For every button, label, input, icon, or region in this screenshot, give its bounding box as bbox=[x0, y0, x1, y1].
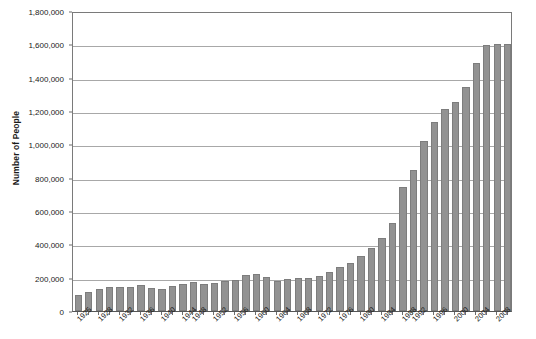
y-tick-mark bbox=[69, 178, 72, 179]
x-tick-mark bbox=[276, 312, 277, 315]
x-tick-mark bbox=[412, 312, 413, 315]
bar bbox=[106, 287, 113, 311]
x-tick-mark bbox=[245, 312, 246, 315]
y-tick-label: 1,200,000 bbox=[28, 108, 64, 117]
x-tick-mark bbox=[402, 312, 403, 315]
x-tick-mark bbox=[318, 312, 319, 315]
x-tick-mark bbox=[255, 312, 256, 315]
y-tick-label: 600,000 bbox=[35, 208, 64, 217]
x-tick-mark bbox=[234, 312, 235, 315]
x-tick-mark bbox=[392, 312, 393, 315]
y-tick-label: 800,000 bbox=[35, 174, 64, 183]
bar bbox=[483, 45, 490, 311]
bar bbox=[504, 44, 511, 311]
y-tick-mark bbox=[69, 245, 72, 246]
bar bbox=[305, 278, 312, 311]
bar bbox=[410, 170, 417, 311]
bar bbox=[399, 187, 406, 311]
x-tick-mark bbox=[140, 312, 141, 315]
plot-area bbox=[72, 12, 512, 312]
x-tick-mark bbox=[77, 312, 78, 315]
bar bbox=[473, 63, 480, 311]
x-tick-mark bbox=[161, 312, 162, 315]
bar bbox=[190, 282, 197, 311]
y-tick-label: 0 bbox=[60, 308, 64, 317]
bar bbox=[116, 287, 123, 312]
bar bbox=[274, 281, 281, 311]
bar bbox=[389, 223, 396, 311]
bar bbox=[200, 284, 207, 312]
bar bbox=[295, 278, 302, 311]
bar bbox=[211, 283, 218, 311]
x-tick-mark bbox=[423, 312, 424, 315]
bar bbox=[221, 281, 228, 311]
y-tick-mark bbox=[69, 312, 72, 313]
bar bbox=[85, 292, 92, 311]
y-tick-label: 400,000 bbox=[35, 241, 64, 250]
y-tick-label: 1,400,000 bbox=[28, 74, 64, 83]
bar bbox=[263, 277, 270, 311]
x-tick-mark bbox=[203, 312, 204, 315]
x-tick-mark bbox=[182, 312, 183, 315]
x-tick-mark bbox=[381, 312, 382, 315]
bar bbox=[441, 109, 448, 312]
bar bbox=[127, 287, 134, 311]
bar bbox=[242, 275, 249, 311]
x-tick-mark bbox=[151, 312, 152, 315]
bar bbox=[431, 122, 438, 311]
bar bbox=[494, 44, 501, 312]
y-tick-mark bbox=[69, 112, 72, 113]
bar bbox=[316, 276, 323, 311]
y-tick-label: 1,600,000 bbox=[28, 41, 64, 50]
x-tick-mark bbox=[444, 312, 445, 315]
x-tick-mark bbox=[88, 312, 89, 315]
y-tick-label: 1,000,000 bbox=[28, 141, 64, 150]
y-tick-mark bbox=[69, 278, 72, 279]
bars-series bbox=[73, 13, 511, 311]
bar-chart: Number of People 0200,000400,000600,0008… bbox=[0, 0, 536, 339]
bar bbox=[179, 284, 186, 311]
y-tick-mark bbox=[69, 78, 72, 79]
y-tick-label: 200,000 bbox=[35, 274, 64, 283]
x-tick-mark bbox=[224, 312, 225, 315]
x-tick-mark bbox=[172, 312, 173, 315]
x-tick-mark bbox=[339, 312, 340, 315]
bar bbox=[75, 295, 82, 311]
x-tick-mark bbox=[130, 312, 131, 315]
x-tick-mark bbox=[433, 312, 434, 315]
x-tick-mark bbox=[475, 312, 476, 315]
x-tick-mark bbox=[454, 312, 455, 315]
x-tick-mark bbox=[350, 312, 351, 315]
bar bbox=[96, 289, 103, 311]
x-tick-mark bbox=[297, 312, 298, 315]
x-tick-mark bbox=[360, 312, 361, 315]
x-tick-mark bbox=[192, 312, 193, 315]
x-tick-mark bbox=[507, 312, 508, 315]
x-tick-mark bbox=[287, 312, 288, 315]
x-tick-mark bbox=[329, 312, 330, 315]
y-tick-mark bbox=[69, 145, 72, 146]
bar bbox=[137, 285, 144, 311]
x-tick-mark bbox=[308, 312, 309, 315]
y-tick-label: 1,800,000 bbox=[28, 8, 64, 17]
x-tick-mark bbox=[496, 312, 497, 315]
x-tick-mark bbox=[266, 312, 267, 315]
bar bbox=[253, 274, 260, 311]
bar bbox=[347, 263, 354, 311]
y-tick-mark bbox=[69, 45, 72, 46]
bar bbox=[158, 289, 165, 311]
x-tick-mark bbox=[98, 312, 99, 315]
bar bbox=[284, 279, 291, 311]
bar bbox=[452, 102, 459, 311]
bar bbox=[357, 256, 364, 311]
bar bbox=[232, 280, 239, 311]
y-tick-mark bbox=[69, 12, 72, 13]
x-tick-mark bbox=[119, 312, 120, 315]
y-axis-tick-labels: 0200,000400,000600,000800,0001,000,0001,… bbox=[0, 0, 68, 339]
x-tick-mark bbox=[109, 312, 110, 315]
bar bbox=[169, 286, 176, 311]
bar bbox=[462, 87, 469, 311]
bar bbox=[378, 238, 385, 311]
x-tick-mark bbox=[213, 312, 214, 315]
y-tick-mark bbox=[69, 212, 72, 213]
